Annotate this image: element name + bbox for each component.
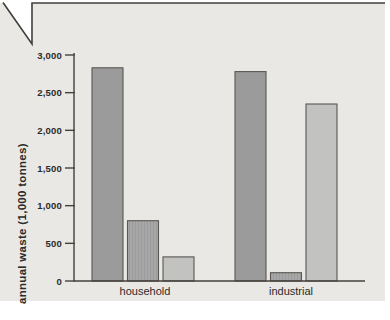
bar-industrial-series-2 bbox=[271, 273, 302, 281]
category-label-household: household bbox=[90, 285, 200, 297]
bar-industrial-series-3 bbox=[306, 104, 337, 281]
y-axis-title: annual waste (1,000 tonnes) bbox=[16, 143, 28, 304]
bar-industrial-series-1 bbox=[235, 72, 266, 281]
y-tick-label: 2,500 bbox=[28, 87, 62, 98]
bar-chart bbox=[0, 0, 390, 320]
figure-canvas: 05001,0001,5002,0002,5003,000 annual was… bbox=[0, 0, 390, 320]
bar-household-series-3 bbox=[163, 257, 194, 281]
category-label-industrial: industrial bbox=[236, 285, 346, 297]
bar-household-series-1 bbox=[92, 68, 123, 281]
y-tick-label: 500 bbox=[28, 238, 62, 249]
y-tick-label: 3,000 bbox=[28, 50, 62, 61]
bar-household-series-2 bbox=[128, 221, 159, 281]
y-tick-label: 2,000 bbox=[28, 125, 62, 136]
y-tick-label: 1,500 bbox=[28, 163, 62, 174]
y-tick-label: 0 bbox=[28, 276, 62, 287]
y-tick-label: 1,000 bbox=[28, 200, 62, 211]
